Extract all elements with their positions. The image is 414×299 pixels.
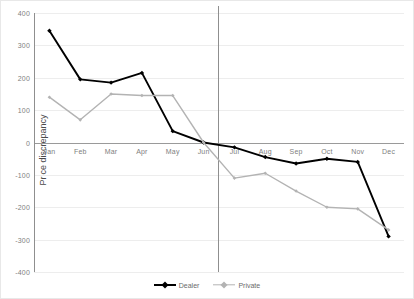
gridline bbox=[34, 272, 404, 273]
data-point-dealer-oct bbox=[325, 156, 329, 160]
y-tick-label: 200 bbox=[18, 74, 30, 81]
y-tick-label: 100 bbox=[18, 107, 30, 114]
y-tick-label: -100 bbox=[15, 171, 30, 178]
legend-swatch-private-icon bbox=[213, 281, 235, 289]
y-tick-label: -300 bbox=[15, 236, 30, 243]
clipped-header-text bbox=[1, 1, 414, 5]
y-tick-label: 300 bbox=[18, 42, 30, 49]
y-tick-label: 0 bbox=[26, 139, 30, 146]
data-point-dealer-aug bbox=[263, 155, 267, 159]
legend-label: Private bbox=[238, 282, 260, 289]
series-line-dealer bbox=[49, 31, 388, 237]
legend-swatch-dealer-icon bbox=[154, 281, 176, 289]
series-line-private bbox=[49, 94, 388, 230]
data-point-private-apr bbox=[140, 94, 144, 98]
data-point-dealer-mar bbox=[109, 80, 113, 84]
chart-container: Price discrepancy 4003002001000-100-200-… bbox=[0, 0, 414, 299]
plot-area: 4003002001000-100-200-300-400 JanFebMarA… bbox=[34, 13, 404, 272]
chart-legend: DealerPrivate bbox=[1, 281, 413, 289]
legend-entry-dealer[interactable]: Dealer bbox=[154, 281, 200, 289]
legend-entry-private[interactable]: Private bbox=[213, 281, 260, 289]
data-point-dealer-jul bbox=[232, 145, 236, 149]
data-point-dealer-sep bbox=[294, 161, 298, 165]
legend-label: Dealer bbox=[179, 282, 200, 289]
y-tick-label: -200 bbox=[15, 204, 30, 211]
y-tick-label: -400 bbox=[15, 269, 30, 276]
series-plot bbox=[34, 13, 404, 272]
y-tick-label: 400 bbox=[18, 10, 30, 17]
